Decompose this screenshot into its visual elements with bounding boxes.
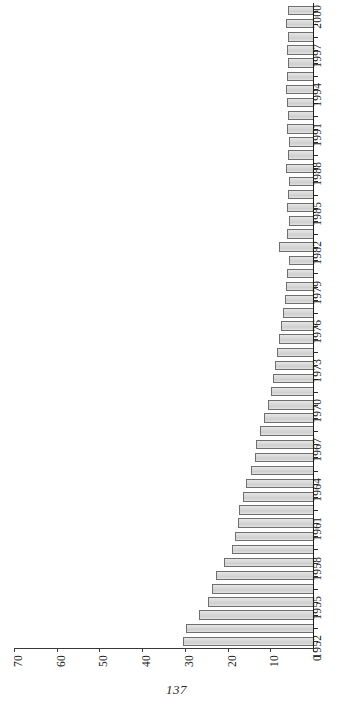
bar [287, 229, 313, 239]
category-tick [313, 155, 318, 156]
bar [281, 321, 313, 331]
bar [238, 518, 313, 528]
category-tick [313, 392, 318, 393]
bar [243, 492, 313, 502]
category-tick [313, 352, 318, 353]
bar [286, 164, 313, 174]
bar [239, 505, 313, 515]
bar [288, 190, 313, 200]
bar [287, 269, 313, 279]
category-label: 1988 [312, 162, 324, 186]
category-label: 1958 [312, 556, 324, 580]
value-tick [228, 648, 229, 652]
bar [183, 637, 313, 647]
bar [289, 256, 313, 266]
bar [271, 387, 313, 397]
bar [212, 584, 313, 594]
bar [279, 334, 313, 344]
bar [224, 558, 313, 568]
value-tick [142, 648, 143, 652]
category-label: 1994 [312, 83, 324, 107]
bar [289, 216, 313, 226]
category-label: 1973 [312, 359, 324, 383]
category-label: 1961 [312, 517, 324, 541]
bar [216, 571, 313, 581]
category-label: 1967 [312, 438, 324, 462]
bar [287, 72, 313, 82]
category-label: 1982 [312, 241, 324, 265]
value-tick [185, 648, 186, 652]
value-label: 40 [141, 655, 153, 667]
bar [232, 545, 313, 555]
bar [273, 374, 313, 384]
bar [285, 295, 313, 305]
category-tick [313, 589, 318, 590]
category-label: 1970 [312, 399, 324, 423]
bar [268, 400, 313, 410]
category-tick [313, 628, 318, 629]
category-tick [313, 313, 318, 314]
category-label: 1955 [312, 596, 324, 620]
bar [287, 45, 313, 55]
value-label: 20 [227, 655, 239, 667]
category-tick [313, 234, 318, 235]
bar [255, 453, 313, 463]
bar-chart-plot: 1952195519581961196419671970197319761979… [0, 0, 353, 655]
value-label: 70 [13, 655, 25, 667]
bar [279, 242, 313, 252]
bar [288, 111, 313, 121]
bar [275, 361, 313, 371]
bar [277, 348, 313, 358]
category-tick [313, 273, 318, 274]
bar [186, 624, 313, 634]
bar [260, 426, 313, 436]
page-number: 137 [0, 682, 353, 698]
value-tick [99, 648, 100, 652]
value-label: 0 [312, 655, 324, 661]
category-label: 1985 [312, 202, 324, 226]
bar [251, 466, 313, 476]
bar [208, 597, 313, 607]
value-axis-line [14, 648, 314, 649]
category-label: 1997 [312, 44, 324, 68]
category-label: 2000 [312, 4, 324, 28]
bar [287, 124, 313, 134]
bar [286, 19, 313, 29]
bar [288, 58, 313, 68]
bar [199, 610, 313, 620]
bar [287, 203, 313, 213]
bar [288, 150, 313, 160]
bar [246, 479, 313, 489]
category-label: 1964 [312, 478, 324, 502]
bar [288, 32, 313, 42]
value-tick [57, 648, 58, 652]
bar [286, 282, 313, 292]
bar [288, 6, 313, 16]
value-tick [313, 648, 314, 652]
value-label: 10 [270, 655, 282, 667]
bar [289, 177, 313, 187]
bar [264, 413, 313, 423]
category-tick [313, 76, 318, 77]
value-tick [14, 648, 15, 652]
category-tick [313, 510, 318, 511]
value-label: 60 [56, 655, 68, 667]
category-label: 1976 [312, 320, 324, 344]
category-tick [313, 116, 318, 117]
bar [256, 440, 313, 450]
value-label: 30 [184, 655, 196, 667]
category-tick [313, 37, 318, 38]
bar [289, 137, 313, 147]
category-tick [313, 431, 318, 432]
bar [287, 98, 313, 108]
category-label: 1979 [312, 280, 324, 304]
category-tick [313, 195, 318, 196]
category-tick [313, 471, 318, 472]
bar [286, 85, 313, 95]
category-tick [313, 549, 318, 550]
category-label: 1991 [312, 123, 324, 147]
value-label: 50 [99, 655, 111, 667]
bar [235, 532, 313, 542]
value-tick [270, 648, 271, 652]
chart-page: 1952195519581961196419671970197319761979… [0, 0, 353, 707]
